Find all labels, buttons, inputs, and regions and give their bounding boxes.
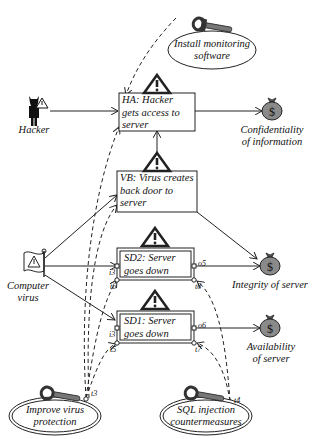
treatment-monitoring-label[interactable]: Install monitoring software	[170, 38, 254, 62]
svg-text:$: $	[269, 105, 275, 119]
warning-icon-ha	[144, 75, 170, 93]
money-bag-icon-confidentiality: $	[262, 98, 282, 120]
incident-sd1-text[interactable]: SD1: Server goes down	[124, 315, 176, 340]
asset-confidentiality-label[interactable]: Confidentiality of information	[230, 124, 314, 148]
warning-icon-sd2	[142, 228, 168, 246]
treatment-sql-label[interactable]: SQL injection countermeasures	[163, 404, 249, 428]
money-bag-icon-integrity: $	[260, 253, 280, 275]
threat-virus-label[interactable]: Computer virus	[4, 280, 52, 304]
port-label-t4: t4	[234, 397, 240, 405]
port-label-i3-sd1: i3	[109, 331, 115, 339]
money-bag-icon-availability: $	[260, 315, 280, 337]
edge-virus-vb	[45, 195, 117, 258]
port-label-o5: o5	[198, 260, 206, 268]
edge-vb-integrity	[197, 212, 257, 259]
incident-ha-text[interactable]: HA: Hacker gets access to server	[122, 94, 180, 132]
edge-protection-vb	[88, 205, 117, 398]
port-label-t5: t5	[110, 346, 116, 354]
port-label-t8: t8	[195, 283, 201, 291]
virus-flag-icon	[24, 251, 44, 277]
treatment-protection-label[interactable]: Improve virus protection	[15, 404, 95, 428]
asset-availability-label[interactable]: Availability of server	[240, 341, 302, 365]
port-label-t6: t6	[110, 283, 116, 291]
edge-sql-sd2	[197, 281, 230, 401]
edge-virus-sd1	[45, 275, 115, 320]
svg-text:$: $	[267, 260, 273, 274]
incident-sd2-text[interactable]: SD2: Server goes down	[124, 252, 176, 277]
warning-icon-sd1	[142, 291, 168, 309]
port-label-o6: o6	[198, 322, 206, 330]
port-label-t3: t3	[91, 390, 97, 398]
threat-hacker-label[interactable]: Hacker	[10, 124, 58, 136]
diagram-canvas: $ $ $	[0, 0, 316, 439]
hacker-icon	[29, 96, 48, 126]
warning-icon-vb	[144, 153, 170, 171]
edge-protection-ha	[84, 127, 119, 398]
asset-integrity-label[interactable]: Integrity of server	[228, 279, 312, 291]
incident-vb-text[interactable]: VB: Virus creates back door to server	[120, 172, 193, 210]
port-label-i3-sd2: i3	[109, 269, 115, 277]
port-label-t7: t7	[195, 346, 201, 354]
svg-text:$: $	[267, 322, 273, 336]
